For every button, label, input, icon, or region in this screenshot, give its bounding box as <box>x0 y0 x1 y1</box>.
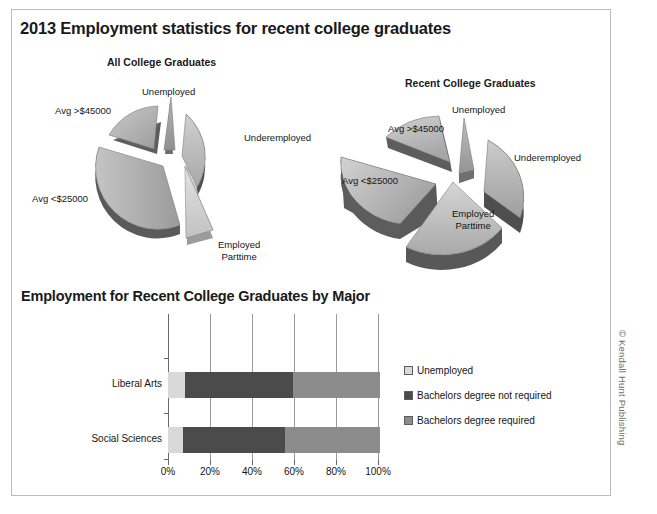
legend-item-bachelors-not-required: Bachelors degree not required <box>404 386 552 404</box>
legend-item-unemployed: Unemployed <box>404 361 552 379</box>
bar-segment-bachelors-not-required <box>185 372 293 398</box>
pie-recent-label-employed-parttime: Employed Parttime <box>452 208 494 231</box>
bar-chart-x-tick <box>378 460 379 465</box>
bar-chart-x-tick <box>210 460 211 465</box>
bar-chart-x-tick <box>294 460 295 465</box>
pie-chart-all-graduates <box>85 92 260 257</box>
pie-all-label-avg-under-25000: Avg <$25000 <box>32 193 88 205</box>
pie-recent-graduates-subtitle: Recent College Graduates <box>405 77 536 89</box>
bar-chart-y-tick <box>164 358 169 359</box>
bar-chart-x-tick <box>336 460 337 465</box>
bar-chart-title: Employment for Recent College Graduates … <box>21 288 370 304</box>
pie-recent-label-underemployed: Underemployed <box>514 152 581 164</box>
pie-all-graduates-subtitle: All College Graduates <box>107 56 216 68</box>
bar-chart-x-tick <box>168 460 169 465</box>
bar-chart-legend: Unemployed Bachelors degree not required… <box>404 361 552 436</box>
bar-chart-y-tick <box>164 413 169 414</box>
legend-label-unemployed: Unemployed <box>417 365 473 376</box>
copyright-notice: © Kendall Hunt Publishing <box>617 330 628 446</box>
bar-x-tick-label: 0% <box>151 466 185 477</box>
bar-row-social-sciences <box>168 427 380 453</box>
pie-all-slice-avg-under-25000 <box>95 147 180 238</box>
pie-recent-label-employed-parttime-line1: Employed <box>452 208 494 219</box>
pie-recent-label-employed-parttime-line2: Parttime <box>455 220 490 231</box>
pie-recent-label-avg-under-25000: Avg <$25000 <box>342 175 398 187</box>
pie-recent-svg <box>338 100 593 275</box>
bar-segment-bachelors-required <box>285 427 380 453</box>
pie-recent-slice-unemployed <box>459 118 474 183</box>
pie-all-label-employed-parttime-line1: Employed <box>218 239 260 250</box>
bar-category-label-liberal-arts: Liberal Arts <box>62 378 162 389</box>
pie-all-label-underemployed: Underemployed <box>244 132 311 144</box>
pie-all-slice-unemployed <box>164 97 175 154</box>
pie-all-label-avg-over-45000: Avg >$45000 <box>55 105 111 117</box>
page-title: 2013 Employment statistics for recent co… <box>20 19 451 38</box>
pie-chart-recent-graduates <box>338 100 593 275</box>
legend-swatch-unemployed-icon <box>404 366 413 375</box>
pie-all-svg <box>85 92 260 257</box>
bar-category-label-social-sciences: Social Sciences <box>52 433 162 444</box>
bar-x-tick-label: 60% <box>277 466 311 477</box>
pie-recent-label-avg-over-45000: Avg >$45000 <box>388 123 444 135</box>
legend-swatch-bachelors-required-icon <box>404 416 413 425</box>
bar-segment-unemployed <box>168 372 185 398</box>
bar-segment-bachelors-not-required <box>183 427 285 453</box>
bar-x-tick-label: 20% <box>193 466 227 477</box>
pie-all-slice-avg-over-45000 <box>109 106 161 154</box>
bar-x-tick-label: 40% <box>235 466 269 477</box>
bar-row-liberal-arts <box>168 372 380 398</box>
pie-all-label-unemployed: Unemployed <box>142 86 195 98</box>
bar-segment-bachelors-required <box>293 372 380 398</box>
legend-swatch-bachelors-not-required-icon <box>404 391 413 400</box>
bar-chart-plot-area <box>168 314 380 460</box>
pie-all-label-employed-parttime: Employed Parttime <box>218 239 260 262</box>
pie-recent-label-unemployed: Unemployed <box>452 104 505 116</box>
bar-x-tick-label: 80% <box>319 466 353 477</box>
bar-x-tick-label: 100% <box>361 466 395 477</box>
legend-item-bachelors-required: Bachelors degree required <box>404 411 552 429</box>
legend-label-bachelors-required: Bachelors degree required <box>417 415 535 426</box>
bar-segment-unemployed <box>168 427 183 453</box>
pie-all-label-employed-parttime-line2: Parttime <box>221 251 256 262</box>
bar-chart-x-tick <box>252 460 253 465</box>
legend-label-bachelors-not-required: Bachelors degree not required <box>417 390 552 401</box>
